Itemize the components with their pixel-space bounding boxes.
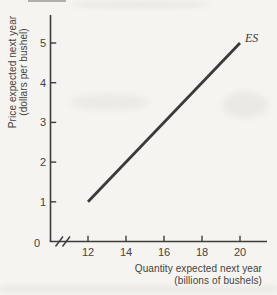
expected-supply-figure: 1214161820 12345 0 Price expected next y… bbox=[0, 0, 277, 295]
y-tick-label: 1 bbox=[40, 196, 46, 208]
x-axis-title-line1: Quantity expected next year bbox=[135, 263, 263, 274]
x-axis-ticks: 1214161820 bbox=[82, 236, 246, 258]
origin-label: 0 bbox=[34, 237, 40, 249]
y-tick-label: 5 bbox=[40, 37, 46, 49]
series-line-es bbox=[88, 43, 240, 202]
y-tick-label: 2 bbox=[40, 156, 46, 168]
x-tick-label: 16 bbox=[158, 246, 170, 258]
y-tick-label: 3 bbox=[40, 116, 46, 128]
y-axis-title-line2: (dollars per bushel) bbox=[18, 28, 29, 116]
x-axis-title-line2: (billions of bushels) bbox=[174, 275, 262, 286]
chart-canvas: 1214161820 12345 0 Price expected next y… bbox=[0, 0, 277, 295]
x-tick-label: 20 bbox=[234, 246, 246, 258]
x-tick-label: 14 bbox=[120, 246, 132, 258]
x-tick-label: 12 bbox=[82, 246, 94, 258]
y-axis-ticks: 12345 bbox=[40, 37, 56, 208]
y-axis-title-line1: Price expected next year bbox=[7, 15, 18, 128]
y-tick-label: 4 bbox=[40, 77, 46, 89]
supply-curve bbox=[88, 43, 240, 202]
x-tick-label: 18 bbox=[196, 246, 208, 258]
curve-label-es: ES bbox=[244, 31, 258, 45]
